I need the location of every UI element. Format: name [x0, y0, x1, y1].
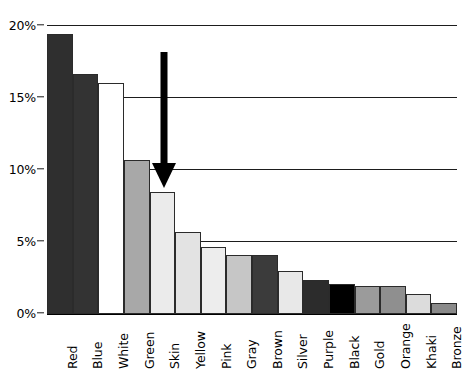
x-tick-label: Blue [90, 342, 105, 369]
x-axis: RedBlueWhiteGreenSkinYellowPinkGrayBrown… [47, 0, 457, 375]
x-tick-label: Purple [321, 330, 336, 369]
x-tick-label: White [116, 333, 131, 369]
x-tick-label: Black [347, 336, 362, 369]
x-tick-label: Skin [167, 343, 182, 369]
x-tick-label: Red [65, 346, 80, 369]
x-tick-label: Orange [398, 323, 413, 369]
x-tick-label: Khaki [424, 335, 439, 369]
x-tick-label: Pink [219, 344, 234, 370]
x-tick-label: Gold [372, 341, 387, 369]
x-tick-label: Green [142, 332, 157, 369]
x-tick-label: Gray [244, 340, 259, 369]
x-tick-label: Bronze [449, 326, 464, 369]
bar-chart: 0%5%10%15%20% RedBlueWhiteGreenSkinYello… [0, 0, 465, 375]
x-tick-label: Yellow [193, 331, 208, 369]
x-tick-label: Brown [270, 330, 285, 369]
x-tick-label: Silver [295, 334, 310, 369]
